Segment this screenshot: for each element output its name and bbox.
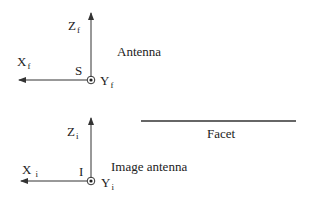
image-z-label: Zi	[67, 125, 78, 138]
image-origin-label: I	[79, 165, 83, 178]
antenna-label: Antenna	[117, 45, 161, 58]
image-y-label: Yi	[101, 176, 114, 189]
antenna-y-label: Yf	[100, 74, 113, 87]
antenna-frame	[19, 13, 95, 84]
antenna-z-label: Zf	[68, 19, 80, 32]
antenna-x-label: Xf	[17, 55, 30, 68]
antenna-origin-label: S	[75, 64, 82, 77]
facet-label: Facet	[207, 127, 235, 140]
image-antenna-label: Image antenna	[111, 160, 187, 173]
image-x-label: Xi	[22, 163, 38, 176]
